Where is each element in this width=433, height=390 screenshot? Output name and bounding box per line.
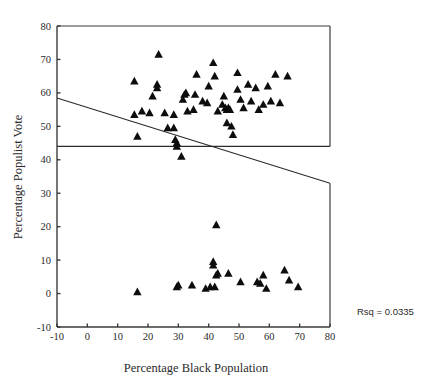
rsq-annotation: Rsq = 0.0335	[357, 306, 414, 317]
data-point	[209, 58, 217, 66]
data-point	[259, 271, 267, 279]
data-point	[133, 287, 141, 295]
data-point-markers	[130, 50, 302, 295]
data-point	[294, 282, 302, 290]
data-point	[182, 88, 190, 96]
data-point	[264, 82, 272, 90]
data-point	[183, 107, 191, 115]
y-tick-label-30: 30	[41, 188, 52, 199]
data-point	[229, 130, 237, 138]
data-point	[145, 109, 153, 117]
data-point	[236, 95, 244, 103]
data-point	[174, 281, 182, 289]
chart-canvas: -1001020304050607080 -100102030405060708…	[0, 0, 433, 390]
scatter-plot-figure: -1001020304050607080 -100102030405060708…	[0, 0, 433, 390]
data-point	[191, 90, 199, 98]
y-tick-label-60: 60	[41, 87, 52, 98]
data-point	[160, 109, 168, 117]
data-point	[236, 277, 244, 285]
x-axis-title: Percentage Black Population	[124, 361, 269, 375]
x-tick-label-50: 50	[234, 331, 245, 342]
y-axis-tick-labels: -1001020304050607080	[37, 21, 51, 333]
y-tick-label--10: -10	[37, 322, 51, 333]
data-point	[209, 257, 217, 265]
y-tick-label-70: 70	[41, 54, 52, 65]
data-point	[212, 221, 220, 229]
data-point	[211, 72, 219, 80]
data-point	[189, 105, 197, 113]
data-point	[192, 70, 200, 78]
x-tick-label-40: 40	[203, 331, 214, 342]
data-point	[280, 266, 288, 274]
data-point	[177, 152, 185, 160]
data-point	[204, 82, 212, 90]
data-point	[148, 92, 156, 100]
data-point	[138, 107, 146, 115]
data-point	[247, 97, 255, 105]
x-tick-label-80: 80	[325, 331, 336, 342]
data-point	[233, 85, 241, 93]
x-tick-label--10: -10	[50, 331, 64, 342]
data-point	[244, 80, 252, 88]
data-point	[220, 92, 228, 100]
x-tick-label-70: 70	[294, 331, 305, 342]
data-point	[233, 68, 241, 76]
y-tick-label-50: 50	[41, 121, 52, 132]
x-tick-label-0: 0	[85, 331, 90, 342]
data-point	[188, 281, 196, 289]
data-point	[276, 99, 284, 107]
y-tick-label-40: 40	[41, 154, 52, 165]
data-point	[259, 100, 267, 108]
data-point	[224, 269, 232, 277]
data-point	[154, 50, 162, 58]
data-point	[170, 110, 178, 118]
data-point	[251, 83, 259, 91]
data-point	[239, 104, 247, 112]
data-point	[130, 77, 138, 85]
x-tick-label-20: 20	[143, 331, 154, 342]
data-point	[214, 107, 222, 115]
data-point	[133, 132, 141, 140]
data-point	[285, 276, 293, 284]
x-tick-label-10: 10	[112, 331, 123, 342]
data-point	[271, 70, 279, 78]
data-point	[170, 124, 178, 132]
data-point	[130, 110, 138, 118]
x-axis-tick-labels: -1001020304050607080	[50, 331, 335, 342]
y-tick-label-0: 0	[46, 288, 51, 299]
y-tick-label-20: 20	[41, 221, 52, 232]
x-tick-label-60: 60	[264, 331, 275, 342]
x-tick-label-30: 30	[173, 331, 184, 342]
data-point	[214, 269, 222, 277]
data-point	[267, 97, 275, 105]
data-point	[283, 72, 291, 80]
y-tick-label-80: 80	[41, 21, 52, 32]
y-tick-label-10: 10	[41, 255, 52, 266]
y-axis-title: Percentage Populist Vote	[11, 114, 25, 239]
